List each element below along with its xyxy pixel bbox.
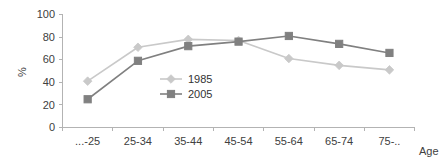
y-tick-label-40: 40 [43, 76, 55, 88]
legend-swatch-marker [167, 90, 174, 97]
data-point [235, 38, 242, 45]
y-axis-title: % [16, 67, 28, 77]
x-axis-title: Age [419, 145, 439, 157]
x-tick-label-4: 55-64 [275, 135, 303, 147]
x-tick-label-2: 35-44 [174, 135, 202, 147]
legend-label-1985: 1985 [188, 73, 212, 85]
chart-canvas: 0 20 40 60 80 100 % ...-25 25-34 35-44 4… [0, 0, 443, 165]
data-point [336, 40, 343, 47]
x-tick-label-3: 45-54 [224, 135, 252, 147]
y-tick-label-0: 0 [49, 121, 55, 133]
y-tick-label-100: 100 [37, 8, 55, 20]
x-tick-label-6: 75-.. [378, 135, 400, 147]
data-point [285, 32, 292, 39]
y-tick-label-60: 60 [43, 53, 55, 65]
x-tick-label-5: 65-74 [325, 135, 353, 147]
y-tick-label-20: 20 [43, 99, 55, 111]
legend-label-2005: 2005 [188, 88, 212, 100]
data-point [84, 96, 91, 103]
y-tick-label-80: 80 [43, 31, 55, 43]
chart-background [0, 0, 443, 165]
data-point [386, 49, 393, 56]
x-tick-label-0: ...-25 [75, 135, 100, 147]
x-tick-label-1: 25-34 [124, 135, 152, 147]
line-chart: 0 20 40 60 80 100 % ...-25 25-34 35-44 4… [0, 0, 443, 165]
data-point [185, 43, 192, 50]
data-point [134, 57, 141, 64]
